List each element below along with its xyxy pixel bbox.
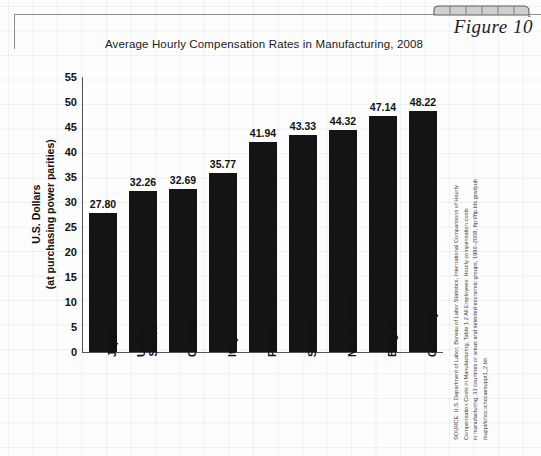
- bar-value-label: 32.69: [170, 174, 196, 186]
- bar-slot: 27.80Japan: [89, 77, 117, 352]
- y-axis-title: U.S. Dollars (at purchasing power pariti…: [28, 77, 58, 352]
- source-note: SOURCE: U.S. Department of Labor, Bureau…: [452, 160, 512, 440]
- x-axis-category-label: Sweden: [303, 357, 347, 369]
- bar-value-label: 44.32: [330, 115, 356, 127]
- x-axis-category-label: United States: [143, 357, 169, 380]
- bar[interactable]: [209, 173, 237, 352]
- y-axis-tick-label: 20: [65, 246, 77, 258]
- bar-slot: 35.77Italy: [209, 77, 237, 352]
- bar-slot: 32.26United States: [129, 77, 157, 352]
- bar-slot: 47.14Belgium: [369, 77, 397, 352]
- y-axis-title-line1: U.S. Dollars: [30, 185, 42, 244]
- bar-value-label: 35.77: [210, 158, 236, 170]
- bar-slot: 32.69Canada: [169, 77, 197, 352]
- bar-slot: 41.94France: [249, 77, 277, 352]
- y-axis-title-line2: (at purchasing power parities): [44, 140, 56, 290]
- decorative-tab-icon: [428, 3, 532, 16]
- bar-slot: 48.22Germany: [409, 77, 437, 352]
- y-axis-tick-label: 55: [65, 71, 77, 83]
- x-axis-category-label: Japan: [103, 357, 137, 369]
- bar-value-label: 32.26: [130, 176, 156, 188]
- x-axis-category-label: Canada: [183, 357, 225, 369]
- y-axis-tick-label: 0: [71, 346, 77, 358]
- source-note-line: Compensation Costs in Manufacturing, Tab…: [462, 160, 472, 440]
- bar[interactable]: [249, 142, 277, 352]
- bar-value-label: 48.22: [410, 96, 436, 108]
- y-axis-tick-label: 45: [65, 121, 77, 133]
- plot-area: 5550454035302520151050 27.80Japan32.26Un…: [83, 77, 443, 352]
- bar-value-label: 27.80: [90, 198, 116, 210]
- bar-slot: 44.32Netherlands: [329, 77, 357, 352]
- bar-value-label: 47.14: [370, 101, 396, 113]
- y-axis-tick-label: 5: [71, 321, 77, 333]
- x-axis-category-label: Italy: [223, 357, 248, 369]
- y-axis-line: [82, 77, 83, 353]
- y-axis-tick-label: 15: [65, 271, 77, 283]
- source-note-line: in manufacturing, 33 countries or areas …: [471, 160, 481, 440]
- source-note-line: /suppl/ichcc.ichccaesuppt1_2.txt: [481, 160, 491, 440]
- y-axis-tick-label: 40: [65, 146, 77, 158]
- x-axis-category-label: Belgium: [383, 357, 428, 369]
- figure-page: Figure 10 Average Hourly Compensation Ra…: [0, 0, 541, 456]
- x-axis-category-label: France: [263, 357, 301, 369]
- source-note-line: SOURCE: U.S. Department of Labor, Bureau…: [452, 160, 462, 440]
- y-axis-tick-label: 50: [65, 96, 77, 108]
- bar-slot: 43.33Sweden: [289, 77, 317, 352]
- y-axis-tick-label: 25: [65, 221, 77, 233]
- y-axis-tick-label: 10: [65, 296, 77, 308]
- y-axis-tick-label: 35: [65, 171, 77, 183]
- bar-value-label: 41.94: [250, 127, 276, 139]
- bar-value-label: 43.33: [290, 120, 316, 132]
- chart-title: Average Hourly Compensation Rates in Man…: [0, 38, 528, 50]
- y-axis-tick-label: 30: [65, 196, 77, 208]
- figure-number-label: Figure 10: [0, 16, 533, 38]
